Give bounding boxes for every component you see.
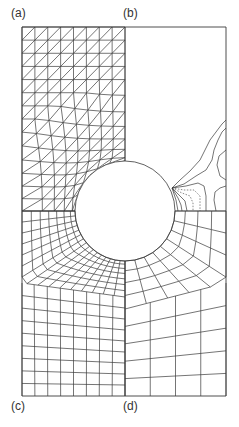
panel-label-d: (d) <box>123 400 138 412</box>
panel-b-contour-plot <box>172 120 226 211</box>
panel-d-coarse-quad-mesh <box>125 211 226 396</box>
panel-label-a: (a) <box>11 7 26 19</box>
panel-a-triangular-mesh <box>22 27 125 211</box>
fem-mesh-figure: (a) (b) (c) (d) <box>0 0 239 427</box>
panel-label-c: (c) <box>11 400 25 412</box>
panel-label-b: (b) <box>123 7 138 19</box>
mesh-canvas <box>0 0 239 427</box>
panel-c-fine-quad-mesh <box>22 211 125 396</box>
